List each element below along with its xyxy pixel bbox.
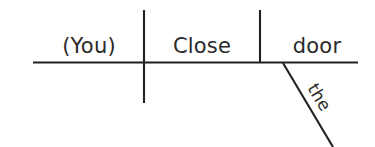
- sentence-diagram-canvas: (You) Close door the: [0, 0, 375, 147]
- verb-label: Close: [173, 34, 231, 58]
- sentence-diagram-svg: (You) Close door the: [0, 0, 375, 147]
- direct-object-label: door: [293, 34, 342, 58]
- article-label: the: [304, 80, 336, 115]
- subject-label: (You): [62, 34, 116, 58]
